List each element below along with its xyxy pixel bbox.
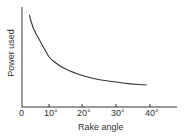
x-tick-label-10: 10° [44, 108, 58, 118]
y-axis-label: Power used [6, 28, 16, 78]
x-tick-label-40: 40° [145, 108, 159, 118]
x-tick-label-0: 0 [19, 108, 24, 118]
chart-canvas [0, 0, 189, 139]
power-curve [29, 15, 146, 85]
x-tick-label-30: 30° [111, 108, 125, 118]
x-axis-label: Rake angle [78, 122, 124, 132]
x-tick-label-20: 20° [77, 108, 91, 118]
